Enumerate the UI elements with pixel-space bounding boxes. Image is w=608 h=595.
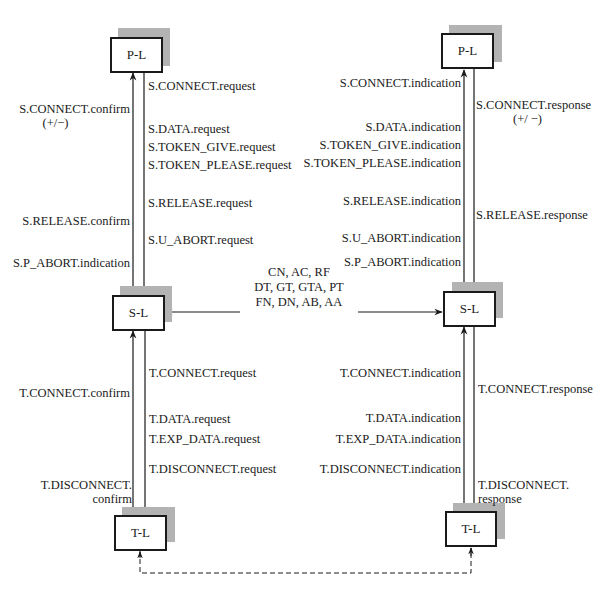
left-transport-layer-box: T-L xyxy=(114,515,167,551)
pdu-line-3: FN, DN, AB, AA xyxy=(236,295,362,310)
session-layer-diagram: P-L P-L S-L S-L T-L T-L S.CONNECT.confir… xyxy=(0,0,608,595)
left-transport-label: T-L xyxy=(131,525,150,541)
session-pdu-list: CN, AC, RF DT, GT, GTA, PT FN, DN, AB, A… xyxy=(236,265,362,310)
right-transport-layer-box: T-L xyxy=(445,511,497,547)
label-t-disconnect-confirm: T.DISCONNECT. confirm xyxy=(41,478,132,506)
left-presentation-layer-box: P-L xyxy=(110,37,163,73)
label-t-disconnect-response: T.DISCONNECT. response xyxy=(478,478,569,506)
label-s-release-confirm: S.RELEASE.confirm xyxy=(22,214,130,228)
left-presentation-label: P-L xyxy=(127,47,147,63)
label-s-token-please-indication: S.TOKEN_PLEASE.indication xyxy=(304,156,461,170)
left-session-layer-box: S-L xyxy=(112,295,165,331)
label-s-connect-indication: S.CONNECT.indication xyxy=(340,76,461,90)
transport-connection-dashed-line xyxy=(140,548,471,573)
label-t-connect-indication: T.CONNECT.indication xyxy=(340,366,461,380)
label-s-token-give-request: S.TOKEN_GIVE.request xyxy=(148,140,276,154)
label-s-connect-confirm: S.CONNECT.confirm (+/−) xyxy=(19,102,130,130)
label-s-connect-request: S.CONNECT.request xyxy=(148,79,255,93)
label-s-data-indication: S.DATA.indication xyxy=(365,120,461,134)
left-session-label: S-L xyxy=(129,305,149,321)
label-s-data-request: S.DATA.request xyxy=(148,122,230,136)
right-presentation-layer-box: P-L xyxy=(441,33,494,69)
label-t-disconnect-indication: T.DISCONNECT.indication xyxy=(320,462,461,476)
right-presentation-label: P-L xyxy=(458,43,478,59)
label-s-release-response: S.RELEASE.response xyxy=(476,208,588,222)
right-session-layer-box: S-L xyxy=(443,291,496,327)
label-s-token-give-indication: S.TOKEN_GIVE.indication xyxy=(320,138,461,152)
label-s-release-request: S.RELEASE.request xyxy=(148,196,252,210)
label-t-exp-data-request: T.EXP_DATA.request xyxy=(149,432,260,446)
label-t-disconnect-request: T.DISCONNECT.request xyxy=(149,462,276,476)
label-t-connect-confirm: T.CONNECT.confirm xyxy=(19,386,130,400)
label-t-data-indication: T.DATA.indication xyxy=(366,411,461,425)
pdu-line-2: DT, GT, GTA, PT xyxy=(252,280,346,295)
label-t-data-request: T.DATA.request xyxy=(149,412,230,426)
label-t-connect-response: T.CONNECT.response xyxy=(478,382,593,396)
right-transport-label: T-L xyxy=(461,521,480,537)
label-s-release-indication: S.RELEASE.indication xyxy=(343,194,461,208)
pdu-line-1: CN, AC, RF xyxy=(236,265,362,280)
right-session-label: S-L xyxy=(460,301,480,317)
label-s-u-abort-indication: S.U_ABORT.indication xyxy=(342,231,461,245)
label-s-p-abort-indication-left: S.P_ABORT.indication xyxy=(13,256,130,270)
label-t-exp-data-indication: T.EXP_DATA.indication xyxy=(336,432,461,446)
label-s-token-please-request: S.TOKEN_PLEASE.request xyxy=(148,158,292,172)
label-s-u-abort-request: S.U_ABORT.request xyxy=(148,233,253,247)
label-s-connect-response: S.CONNECT.response (+/ −) xyxy=(476,98,591,126)
label-t-connect-request: T.CONNECT.request xyxy=(149,366,256,380)
